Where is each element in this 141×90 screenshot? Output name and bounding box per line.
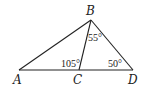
segment-ab	[19, 20, 91, 70]
angle-label-cbd: 55°	[88, 32, 102, 43]
triangle-diagram: B A C D 55° 105° 50°	[0, 0, 141, 90]
label-point-d: D	[127, 73, 138, 87]
label-point-b: B	[85, 4, 95, 18]
angle-label-bca: 105°	[61, 58, 80, 69]
label-point-a: A	[12, 73, 22, 87]
label-point-c: C	[73, 73, 82, 87]
angle-label-bdc: 50°	[108, 58, 122, 69]
